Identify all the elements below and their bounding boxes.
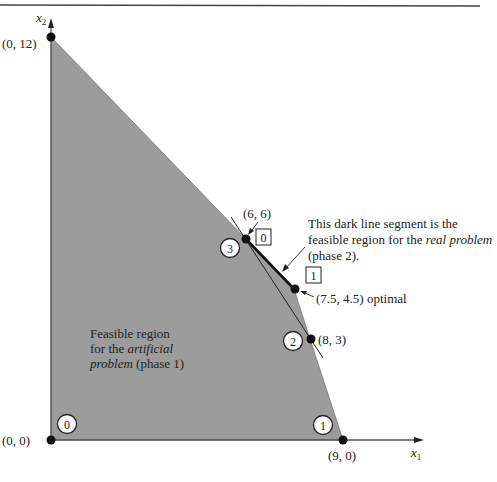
vertex-9-0 [339,436,348,445]
x2-axis-label: x2 [35,10,46,27]
label-6-6: (6, 6) [243,206,271,221]
svg-text:for the artificial: for the artificial [90,341,173,356]
svg-text:(phase 2).: (phase 2). [308,248,359,263]
svg-text:2: 2 [290,335,296,349]
vertex-6-6 [242,235,251,244]
svg-text:problem (phase 1): problem (phase 1) [89,356,184,371]
vertex-0-12 [47,33,56,42]
svg-text:This dark line segment is the: This dark line segment is the [308,216,458,231]
circled-marker-2: 2 [284,332,303,351]
label-7-5-4-5-optimal: (7.5, 4.5) optimal [316,291,407,306]
diagram-canvas: x2 x1 (0, 12) (0, 0) (9, 0) (6, 6) (7.5,… [0,0,497,482]
svg-text:1: 1 [320,419,326,433]
x1-axis-label: x1 [410,445,421,462]
label-8-3: (8, 3) [318,332,346,347]
pointer-optimal-arrowhead-icon [300,291,307,295]
pointer-real-segment [285,247,305,269]
circled-marker-0: 0 [58,415,77,434]
svg-text:1: 1 [311,269,317,283]
circled-marker-1: 1 [314,416,333,435]
circled-marker-3: 3 [221,239,240,258]
svg-text:Feasible region: Feasible region [90,326,170,341]
vertex-8-3 [307,335,316,344]
svg-text:0: 0 [261,231,267,245]
label-0-12: (0, 12) [2,36,37,51]
vertex-7-5-4-5 [291,285,300,294]
label-0-0: (0, 0) [2,433,30,448]
top-rule [0,5,480,6]
boxed-marker-1: 1 [306,267,321,283]
svg-text:feasible region for the real p: feasible region for the real problem [308,232,492,247]
vertex-0-0 [47,436,56,445]
boxed-marker-0: 0 [256,229,271,245]
label-9-0: (9, 0) [328,448,356,463]
artificial-feasible-region [51,37,343,440]
svg-text:3: 3 [227,242,233,256]
x2-axis-arrow-icon [48,18,54,28]
real-problem-annotation: This dark line segment is the feasible r… [308,216,492,263]
svg-text:0: 0 [64,418,70,432]
x1-axis-arrow-icon [414,437,424,443]
